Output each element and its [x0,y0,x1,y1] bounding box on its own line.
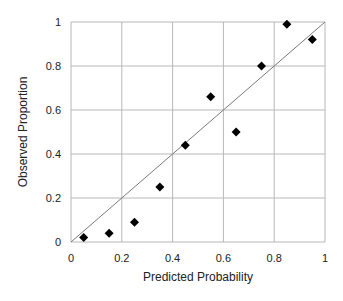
diamond-marker-icon [130,218,139,227]
y-axis-ticks: 00.20.40.60.81 [46,16,61,248]
diamond-marker-icon [181,141,190,150]
calibration-scatter-chart: 00.20.40.60.81 00.20.40.60.81 Predicted … [0,0,343,301]
diagonal-line [71,22,325,242]
x-axis-label: Predicted Probability [143,270,253,284]
diamond-marker-icon [232,128,241,137]
x-tick-label: 0 [68,252,74,264]
diamond-marker-icon [257,62,266,71]
y-tick-label: 0.8 [46,60,61,72]
y-tick-label: 0.2 [46,192,61,204]
x-tick-label: 0.4 [165,252,180,264]
x-tick-label: 0.8 [267,252,282,264]
y-tick-label: 0.6 [46,104,61,116]
data-points [79,20,317,242]
diamond-marker-icon [308,35,317,44]
diamond-marker-icon [282,20,291,29]
diamond-marker-icon [155,183,164,192]
reference-diagonal-line [71,22,325,242]
x-tick-label: 0.2 [114,252,129,264]
diamond-marker-icon [79,233,88,242]
diamond-marker-icon [206,92,215,101]
x-tick-label: 0.6 [216,252,231,264]
x-axis-ticks: 00.20.40.60.81 [68,252,328,264]
y-tick-label: 1 [55,16,61,28]
x-tick-label: 1 [322,252,328,264]
y-axis-label: Observed Proportion [16,77,30,188]
diamond-marker-icon [105,229,114,238]
y-tick-label: 0.4 [46,148,61,160]
y-tick-label: 0 [55,236,61,248]
